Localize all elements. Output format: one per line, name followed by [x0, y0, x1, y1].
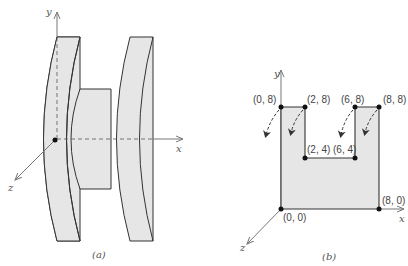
label-6-8: (6, 8): [341, 94, 364, 105]
point-8-8: [377, 105, 382, 110]
origin-point-a: [53, 138, 58, 143]
point-6-8: [353, 105, 358, 110]
point-6-4: [353, 156, 358, 161]
y-label-b: y: [273, 68, 280, 79]
label-2-4: (2, 4): [307, 144, 330, 155]
label-2-8: (2, 8): [307, 94, 330, 105]
label-0-0: (0, 0): [283, 212, 306, 223]
u-shaped-region: [281, 107, 379, 209]
caption-b: (b): [322, 251, 336, 262]
label-0-8: (0, 8): [253, 94, 276, 105]
y-label-a: y: [45, 6, 52, 17]
point-2-4: [303, 156, 308, 161]
central-hub: [71, 89, 111, 189]
point-0-0: [279, 207, 284, 212]
label-8-8: (8, 8): [383, 94, 406, 105]
point-0-8: [279, 105, 284, 110]
point-8-0: [377, 207, 382, 212]
z-label-b: z: [239, 242, 246, 253]
x-label-b: x: [399, 213, 405, 224]
label-8-0: (8, 0): [382, 195, 405, 206]
figure-a-spool: y x z (a): [7, 6, 183, 260]
label-6-4: (6, 4): [333, 144, 356, 155]
z-axis-b: [247, 209, 281, 244]
caption-a: (a): [92, 249, 106, 260]
figure-canvas: y x z (a) (0, 8) (2, 8) (6, 8): [0, 0, 408, 266]
x-label-a: x: [176, 143, 182, 154]
point-2-8: [303, 105, 308, 110]
figure-b-region: (0, 8) (2, 8) (6, 8) (8, 8) (2, 4) (6, 4…: [239, 68, 406, 262]
z-label-a: z: [7, 182, 14, 193]
